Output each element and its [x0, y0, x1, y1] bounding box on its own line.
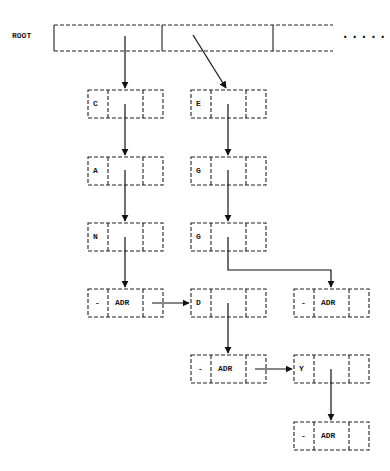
node-key: A	[93, 166, 98, 175]
root-array	[54, 25, 333, 51]
node-key: G	[196, 166, 201, 175]
node-key: Y	[299, 364, 304, 373]
node-key: D	[196, 298, 201, 307]
terminal-node-2: - ADR	[294, 289, 369, 317]
node-key: -	[301, 298, 306, 307]
trie-diagram: ROOT ..... C E A G N G	[0, 0, 390, 471]
node-key: -	[198, 364, 203, 373]
node-data: ADR	[321, 431, 336, 440]
edges	[125, 35, 331, 420]
node-key: -	[95, 298, 100, 307]
edge-g2-end2	[228, 237, 331, 287]
node-data: ADR	[218, 364, 233, 373]
terminal-node-1: - ADR	[88, 289, 163, 317]
edge-root-e	[193, 35, 226, 88]
node-key: G	[196, 232, 201, 241]
terminal-node-3: - ADR	[191, 355, 266, 383]
node-key: N	[93, 232, 98, 241]
continuation-ellipsis: .....	[341, 26, 388, 42]
node-key: E	[196, 99, 201, 108]
terminal-node-4: - ADR	[294, 422, 369, 450]
node-data: ADR	[321, 298, 336, 307]
node-key: -	[301, 431, 306, 440]
root-label: ROOT	[12, 31, 31, 40]
node-key: C	[93, 99, 98, 108]
node-data: ADR	[115, 298, 130, 307]
